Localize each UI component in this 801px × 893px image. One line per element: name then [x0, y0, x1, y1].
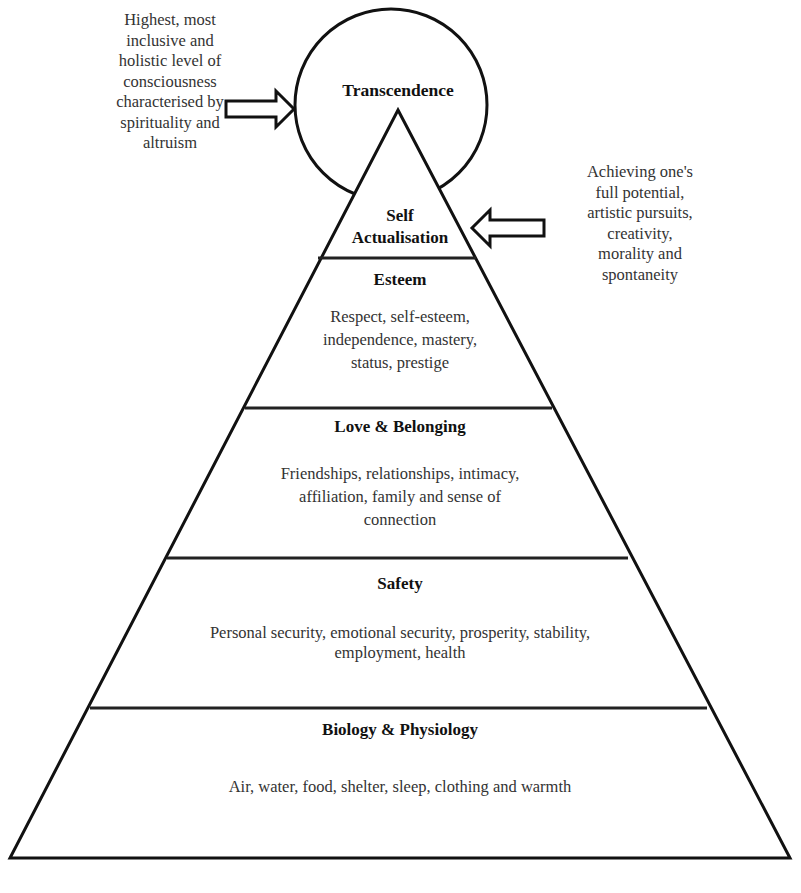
desc-line: independence, mastery, — [250, 328, 550, 351]
note-line: consciousness — [80, 72, 260, 93]
desc-line: status, prestige — [250, 351, 550, 374]
love-belonging-title: Love & Belonging — [200, 417, 600, 437]
note-line: artistic pursuits, — [545, 203, 735, 224]
esteem-title: Esteem — [250, 270, 550, 290]
note-line: altruism — [80, 133, 260, 154]
desc-line: affiliation, family and sense of — [200, 485, 600, 508]
transcendence-title: Transcendence — [300, 80, 496, 101]
desc-line: connection — [200, 508, 600, 531]
desc-line: Friendships, relationships, intimacy, — [200, 462, 600, 485]
note-line: spontaneity — [545, 265, 735, 286]
title-line: Actualisation — [320, 227, 480, 249]
biology-physiology-description: Air, water, food, shelter, sleep, clothi… — [100, 777, 700, 797]
note-line: spirituality and — [80, 113, 260, 134]
desc-line: Respect, self-esteem, — [250, 305, 550, 328]
note-line: creativity, — [545, 224, 735, 245]
note-line: holistic level of — [80, 51, 260, 72]
note-line: inclusive and — [80, 31, 260, 52]
note-line: full potential, — [545, 183, 735, 204]
self-actualisation-note: Achieving one's full potential, artistic… — [545, 162, 735, 285]
desc-line: employment, health — [100, 643, 700, 663]
desc-line: Personal security, emotional security, p… — [100, 623, 700, 643]
safety-description: Personal security, emotional security, p… — [100, 623, 700, 663]
love-belonging-description: Friendships, relationships, intimacy, af… — [200, 462, 600, 531]
note-line: Highest, most — [80, 10, 260, 31]
esteem-description: Respect, self-esteem, independence, mast… — [250, 305, 550, 374]
note-line: Achieving one's — [545, 162, 735, 183]
title-line: Self — [320, 205, 480, 227]
note-line: characterised by — [80, 92, 260, 113]
note-line: morality and — [545, 244, 735, 265]
desc-line: Air, water, food, shelter, sleep, clothi… — [100, 777, 700, 797]
self-actualisation-title: Self Actualisation — [320, 205, 480, 249]
biology-physiology-title: Biology & Physiology — [200, 720, 600, 740]
safety-title: Safety — [200, 574, 600, 594]
transcendence-note: Highest, most inclusive and holistic lev… — [80, 10, 260, 154]
arrow-left-icon — [472, 210, 544, 246]
